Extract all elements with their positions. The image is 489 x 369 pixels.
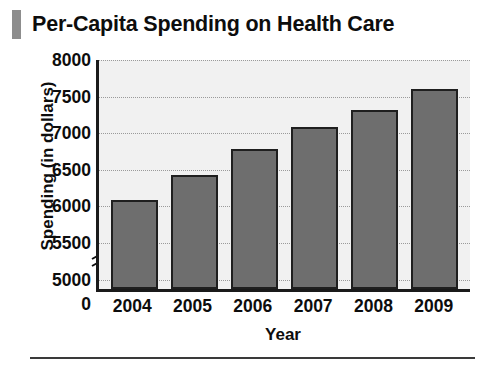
bar bbox=[291, 127, 338, 289]
bar-chart: Spending (in dollars) 800075007000650060… bbox=[0, 44, 489, 334]
x-axis-tick-label: 2006 bbox=[223, 296, 282, 317]
bar bbox=[351, 110, 398, 289]
y-axis-tick-label: 0 bbox=[4, 294, 96, 315]
x-axis-title: Year bbox=[96, 325, 470, 345]
y-axis-tick-label: 5000 bbox=[4, 269, 96, 290]
y-axis-tick-label: 6000 bbox=[4, 196, 96, 217]
y-axis-tick-label: 7000 bbox=[4, 123, 96, 144]
y-axis-tick-label: 5500 bbox=[4, 232, 96, 253]
x-axis-tick-label: 2009 bbox=[404, 296, 463, 317]
y-axis-tick-labels: 80007500700065006000550050000 bbox=[0, 60, 96, 292]
bar bbox=[231, 149, 278, 289]
y-axis-tick-label: 8000 bbox=[4, 50, 96, 71]
bar bbox=[111, 200, 158, 289]
x-axis-tick-label: 2004 bbox=[103, 296, 162, 317]
x-axis-tick-label: 2007 bbox=[284, 296, 343, 317]
bottom-divider bbox=[30, 357, 475, 359]
bar-series bbox=[99, 60, 470, 289]
plot-area bbox=[96, 60, 470, 292]
y-axis-tick-label: 7500 bbox=[4, 86, 96, 107]
chart-title-bar: Per-Capita Spending on Health Care bbox=[0, 4, 489, 44]
bar bbox=[171, 175, 218, 289]
y-axis-tick-label: 6500 bbox=[4, 159, 96, 180]
page-title: Per-Capita Spending on Health Care bbox=[32, 12, 394, 37]
x-axis-tick-label: 2005 bbox=[163, 296, 222, 317]
bar bbox=[411, 89, 458, 289]
x-axis-tick-label: 2008 bbox=[344, 296, 403, 317]
title-accent-bar bbox=[12, 10, 21, 39]
x-axis-tick-labels: 200420052006200720082009 bbox=[96, 296, 470, 317]
